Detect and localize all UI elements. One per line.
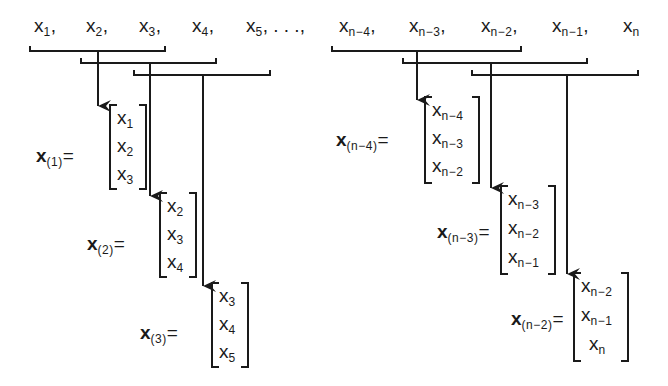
vector-1-entry: x3 [117, 162, 134, 192]
window-bracket-n-4 [332, 46, 521, 51]
vector-n-3-entry: xn−1 [508, 245, 539, 275]
vector-label-n-4: x(n−4)= [336, 128, 389, 158]
vector-1-entry: x1 [117, 106, 134, 136]
vector-n-2-entry: xn−1 [581, 303, 612, 333]
vector-n-3: xn−3 xn−2 xn−1 [500, 185, 556, 275]
window-bracket-n-2 [472, 70, 638, 75]
vector-label-3: x(3)= [140, 321, 178, 351]
vector-n-2: xn−2 xn−1 xn [573, 272, 629, 362]
vector-label-n-2: x(n−2)= [511, 307, 564, 337]
vector-n-4-entry: xn−3 [432, 126, 463, 156]
vector-2: x2 x3 x4 [159, 192, 197, 278]
window-bracket-3 [134, 70, 270, 75]
vector-n-4-entry: xn−2 [432, 154, 463, 184]
vector-1: x1 x2 x3 [109, 104, 147, 190]
vector-label-n-3: x(n−3)= [437, 220, 490, 250]
vector-2-entry: x2 [167, 194, 184, 224]
vector-n-3-entry: xn−2 [508, 216, 539, 246]
vector-3: x3 x4 x5 [211, 282, 249, 368]
vector-n-4-entry: xn−4 [432, 98, 463, 128]
vector-3-entry: x3 [219, 284, 236, 314]
window-bracket-1 [30, 46, 165, 51]
sliding-window-diagram: x1, x2, x3, x4, x5, . . ., xn−4, xn−3, x… [0, 0, 668, 386]
vector-3-entry: x5 [219, 340, 236, 370]
vector-2-entry: x4 [167, 250, 184, 280]
window-bracket-n-3 [403, 58, 587, 63]
window-connectors [0, 0, 668, 386]
vector-1-entry: x2 [117, 134, 134, 164]
vector-n-2-entry: xn−2 [581, 274, 612, 304]
vector-n-2-entry: xn [589, 332, 606, 362]
vector-n-4: xn−4 xn−3 xn−2 [424, 96, 480, 184]
window-bracket-2 [81, 58, 216, 63]
vector-n-3-entry: xn−3 [508, 187, 539, 217]
vector-3-entry: x4 [219, 312, 236, 342]
vector-label-1: x(1)= [36, 144, 74, 174]
vector-2-entry: x3 [167, 222, 184, 252]
vector-label-2: x(2)= [87, 232, 125, 262]
